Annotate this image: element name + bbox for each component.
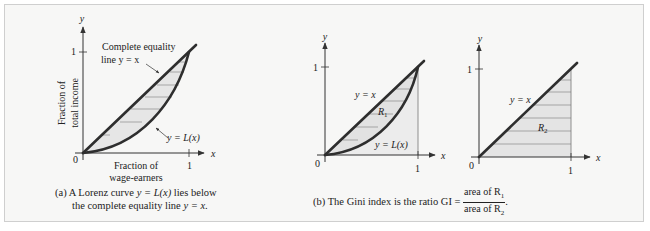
gini-denominator: area of R2 [463, 203, 505, 219]
y-title-line1: Fraction of [56, 80, 67, 125]
y-axis-label: y [322, 31, 328, 42]
caption-a-line2-math: y = x [183, 200, 205, 211]
lorenz-curve-label: y = L(x) [166, 132, 201, 144]
gini-fraction: area of R1area of R2 [463, 186, 505, 219]
gini-numerator: area of R1 [463, 186, 505, 203]
caption-a-line1-text: A Lorenz curve [69, 187, 137, 198]
equality-label-line2: line y = x [101, 54, 139, 65]
caption-b: (b) The Gini index is the ratio GI = are… [313, 186, 508, 219]
x-tick-1-label: 1 [187, 160, 192, 171]
equality-label-line1: Complete equality [102, 41, 176, 52]
y-tick-1-label: 1 [71, 46, 76, 57]
y-title-line2: total income [69, 78, 80, 128]
caption-a: (a) A Lorenz curve y = L(x) lies below [55, 186, 217, 199]
x-tick-1-label: 1 [568, 165, 573, 176]
caption-a-line1-tail: lies below [171, 187, 217, 198]
caption-a-line2: the complete equality line y = x. [72, 199, 208, 212]
line-label: y = x [509, 94, 531, 105]
caption-b-text: The Gini index is the ratio GI = [328, 196, 463, 207]
y-tick-1-label: 1 [313, 62, 318, 73]
caption-b-prefix: (b) [313, 196, 325, 207]
equality-leader [146, 64, 159, 73]
caption-a-line2-tail: . [205, 200, 208, 211]
x-axis-label: x [210, 148, 216, 159]
caption-b-suffix: . [505, 196, 508, 207]
line-label: y = x [354, 89, 376, 100]
y-axis-label: y [477, 33, 483, 44]
lorenz-curve-label: y = L(x) [374, 139, 409, 151]
x-axis-label: x [595, 152, 601, 163]
panel-b-region-r1: y x 0 1 1 y = x R1 y = L(x) [313, 31, 446, 174]
caption-a-line2-text: the complete equality line [72, 200, 183, 211]
x-tick-1-label: 1 [415, 163, 420, 174]
y-axis-label: y [79, 13, 85, 24]
origin-label: 0 [315, 158, 320, 169]
panel-a-lorenz-curve: y x 0 1 1 Complete equality line y = x y… [56, 13, 216, 183]
caption-a-prefix: (a) [55, 187, 67, 198]
origin-label: 0 [469, 160, 474, 171]
panel-c-region-r2: y x 0 1 1 y = x R2 [467, 33, 601, 176]
caption-a-line1-math: y = L(x) [137, 187, 172, 198]
origin-label: 0 [73, 154, 78, 165]
x-title-line1: Fraction of [114, 160, 159, 171]
y-tick-1-label: 1 [467, 64, 472, 75]
x-title-line2: wage-earners [109, 172, 162, 183]
x-axis-label: x [440, 150, 446, 161]
